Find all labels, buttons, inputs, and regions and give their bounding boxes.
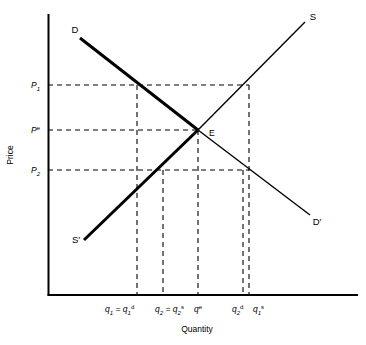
equilibrium-point-label: E — [209, 128, 215, 138]
x-axis-title: Quantity — [181, 324, 213, 334]
demand-curve-label-d-prime: D′ — [313, 216, 322, 227]
demand-curve-label-d: D — [72, 24, 79, 35]
chart-background — [0, 0, 366, 345]
supply-curve-label-s-prime: S′ — [72, 234, 80, 245]
y-axis-title: Price — [5, 145, 15, 165]
supply-demand-chart: D D′ S′ S E P1 Pe P2 q1 = q1d q2 = q2s q… — [0, 0, 366, 345]
supply-curve-label-s: S — [310, 11, 316, 22]
